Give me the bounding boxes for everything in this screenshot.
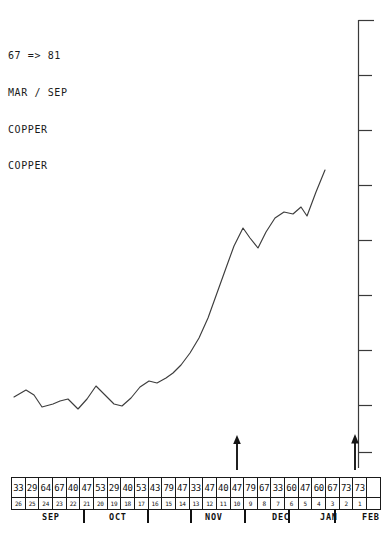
table-cell-value: 60 (312, 478, 326, 498)
table-cell-value: 47 (80, 478, 94, 498)
table-cell-value: 53 (93, 478, 107, 498)
right-axis (359, 20, 375, 468)
table-cell-value: 67 (52, 478, 66, 498)
month-axis: SEP OCT NOV DEC JAN FEB (0, 508, 392, 530)
table-cell-value: 79 (244, 478, 258, 498)
chart-svg (0, 0, 392, 470)
month-separator (83, 509, 85, 523)
month-separator (334, 509, 336, 523)
table-cell-value: 40 (216, 478, 230, 498)
data-grid: 33 29 64 67 40 47 53 29 40 53 43 79 47 3… (11, 477, 381, 510)
table-cell-value: 79 (162, 478, 176, 498)
table-cell-blank (367, 478, 381, 498)
table-cell-value: 33 (271, 478, 285, 498)
table-cell-value: 53 (134, 478, 148, 498)
table-cell-value: 29 (107, 478, 121, 498)
arrow-marker-end (351, 434, 359, 470)
table-cell-value: 47 (203, 478, 217, 498)
table-row-values: 33 29 64 67 40 47 53 29 40 53 43 79 47 3… (12, 478, 381, 498)
table-cell-value: 47 (230, 478, 244, 498)
table-cell-value: 29 (25, 478, 39, 498)
table-cell-value: 33 (12, 478, 26, 498)
table-cell-value: 40 (66, 478, 80, 498)
table-cell-value: 47 (298, 478, 312, 498)
table-cell-value: 67 (257, 478, 271, 498)
data-table: 33 29 64 67 40 47 53 29 40 53 43 79 47 3… (11, 477, 381, 507)
chart-plot-area (0, 0, 392, 470)
month-label-oct: OCT (109, 512, 127, 522)
table-cell-value: 73 (353, 478, 367, 498)
table-cell-value: 67 (326, 478, 340, 498)
month-separator (288, 509, 290, 523)
table-cell-value: 33 (189, 478, 203, 498)
month-label-feb: FEB (362, 512, 380, 522)
month-label-sep: SEP (42, 512, 60, 522)
month-separator (190, 509, 192, 523)
table-cell-value: 64 (39, 478, 53, 498)
month-separator (244, 509, 246, 523)
price-line (14, 170, 325, 409)
table-cell-value: 40 (121, 478, 135, 498)
arrow-marker-jan (233, 435, 241, 470)
table-cell-value: 43 (148, 478, 162, 498)
month-label-nov: NOV (205, 512, 223, 522)
month-separator (147, 509, 149, 523)
table-cell-value: 73 (339, 478, 353, 498)
table-cell-value: 60 (285, 478, 299, 498)
table-cell-value: 47 (175, 478, 189, 498)
